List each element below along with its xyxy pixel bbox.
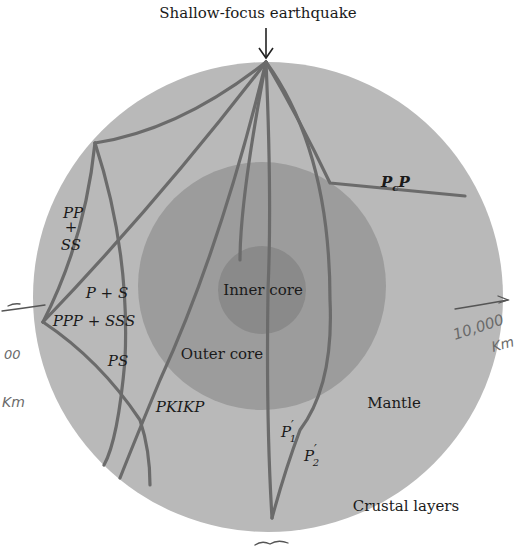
ps-label: PS xyxy=(107,352,128,370)
inner-core-label: Inner core xyxy=(223,281,303,299)
earth-seismic-wave-diagram: Shallow-focus earthquake Inner core Oute… xyxy=(0,0,516,547)
hand-left-unit: Km xyxy=(2,394,25,410)
outer-core-label: Outer core xyxy=(181,345,263,363)
p-s-label: P + S xyxy=(85,284,128,302)
pp-ss-label-line2: + xyxy=(65,218,78,236)
p1-label: P′1 xyxy=(280,419,296,444)
p2-label: P′2 xyxy=(303,443,319,468)
pp-ss-label-line3: SS xyxy=(61,236,81,254)
crustal-layers-label: Crustal layers xyxy=(353,497,460,515)
title-label: Shallow-focus earthquake xyxy=(159,4,356,22)
handwritten-scribble-bottom xyxy=(255,541,288,545)
hand-left-value: 00 xyxy=(4,347,21,362)
pkikp-label: PKIKP xyxy=(155,398,205,416)
mantle-label: Mantle xyxy=(367,394,421,412)
ppp-sss-label: PPP + SSS xyxy=(52,312,136,330)
epicenter-arrow-icon xyxy=(259,28,273,58)
